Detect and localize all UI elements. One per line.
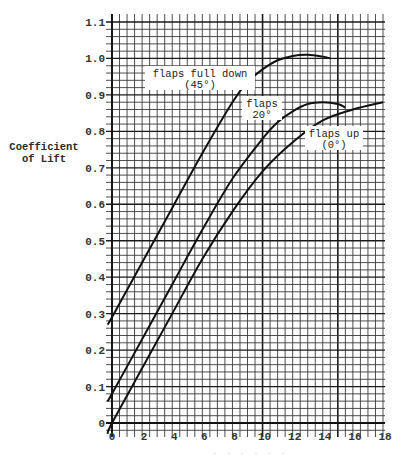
y-axis-label: Coefficient of Lift <box>6 141 82 165</box>
x-tick-label: 2 <box>141 431 148 443</box>
y-tick-label: 0.9 <box>85 90 105 102</box>
y-tick-label: 0.5 <box>85 236 105 248</box>
x-tick-label: 18 <box>378 431 392 443</box>
y-axis-label-line-2: of Lift <box>6 153 82 165</box>
x-tick-label: 10 <box>258 431 271 443</box>
series-label: (0°) <box>321 139 346 151</box>
y-tick-label: 0.8 <box>85 126 105 138</box>
series-line <box>107 102 383 434</box>
y-tick-label: 0.4 <box>85 272 105 284</box>
y-axis-label-line-1: Coefficient <box>6 141 82 153</box>
y-tick-label: 0.7 <box>85 163 105 175</box>
y-tick-label: 0.2 <box>85 345 105 357</box>
series-label: (45°) <box>184 79 216 91</box>
y-tick-label: 1.1 <box>85 17 105 29</box>
x-tick-label: 6 <box>201 431 208 443</box>
x-tick-label: 14 <box>318 431 332 443</box>
x-axis-label-faint: . . . . . . <box>180 447 320 456</box>
y-tick-label: 0.1 <box>85 382 105 394</box>
x-tick-label: 8 <box>231 431 238 443</box>
x-tick-label: 16 <box>348 431 361 443</box>
series-label: 20° <box>253 109 272 121</box>
y-tick-label: 1.0 <box>85 53 105 65</box>
y-tick-label: 0.6 <box>85 199 105 211</box>
y-tick-label: 0.3 <box>85 309 105 321</box>
x-tick-label: 4 <box>171 431 178 443</box>
x-tick-label: 12 <box>288 431 301 443</box>
y-tick-label: 0 <box>98 418 105 430</box>
lift-coefficient-chart: 00.10.20.30.40.50.60.70.80.91.01.1024681… <box>0 0 397 461</box>
x-tick-label: 0 <box>109 431 116 443</box>
